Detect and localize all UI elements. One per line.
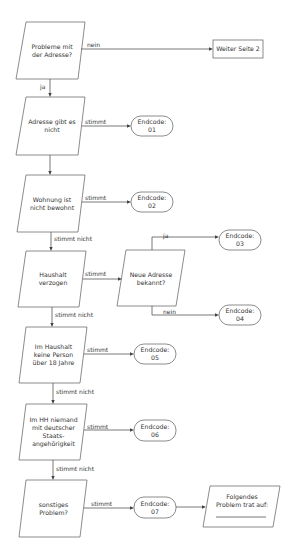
text-line: 04: [219, 315, 261, 323]
text-line: Im Haushalt: [22, 343, 85, 351]
edge-label-stimmt-nicht: stimmt nicht: [56, 388, 94, 395]
text-line: keine Person: [22, 351, 85, 359]
decision-label: Im HH niemand mit deutscher Staats- ange…: [22, 416, 85, 448]
text-line: bekannt?: [120, 279, 182, 287]
text-line: sonstiges: [22, 501, 85, 509]
endcode-label: Endcode: 06: [134, 423, 176, 439]
edge-d5-nein: [152, 306, 217, 315]
edge-label-stimmt: stimmt: [85, 194, 106, 201]
text-line: Endcode:: [131, 118, 173, 126]
text-line: Staats-: [22, 432, 85, 440]
arrowhead-icon: [51, 400, 54, 404]
text-line: Endcode:: [219, 232, 261, 240]
text-line: Folgendes: [205, 493, 279, 501]
arrowhead-icon: [50, 323, 53, 327]
arrowhead-icon: [48, 171, 51, 175]
text-line: Endcode:: [219, 307, 261, 315]
text-line: 07: [134, 508, 176, 516]
text-line: Endcode:: [134, 423, 176, 431]
endcode-label: Endcode: 02: [131, 194, 173, 210]
text-line: der Adresse?: [22, 51, 82, 59]
text-line: 03: [219, 240, 261, 248]
text-line: nicht bewohnt: [21, 204, 83, 212]
text-line: angehörigkeit: [22, 440, 85, 448]
text-line: 01: [131, 126, 173, 134]
text-line: verzogen: [22, 279, 84, 287]
edge-d5-ja: [152, 237, 217, 250]
decision-label: Im Haushalt keine Person über 18 Jahre: [22, 343, 85, 367]
arrowhead-icon: [51, 476, 54, 480]
output-label: Folgendes Problem trat auf:: [205, 493, 279, 509]
edge-label-stimmt-nicht: stimmt nicht: [56, 465, 94, 472]
decision-label: sonstiges Problem?: [22, 501, 85, 517]
text-line: Problem?: [22, 509, 85, 517]
text-line: mit deutscher: [22, 424, 85, 432]
text-line: Endcode:: [131, 194, 173, 202]
text-line: Neue Adresse: [120, 271, 182, 279]
endcode-label: Endcode: 07: [134, 500, 176, 516]
text-line: Adresse gibt es: [20, 118, 84, 126]
endcode-label: Endcode: 01: [131, 118, 173, 134]
edge-label-stimmt: stimmt: [87, 423, 108, 430]
edge-label-nein: nein: [163, 308, 176, 315]
text-line: 05: [134, 354, 176, 362]
decision-label: Adresse gibt es nicht: [20, 118, 84, 134]
edge-label-stimmt: stimmt: [91, 500, 112, 507]
endcode-label: Endcode: 05: [134, 346, 176, 362]
decision-label: Wohnung ist nicht bewohnt: [21, 196, 83, 212]
decision-label: Probleme mit der Adresse?: [22, 43, 82, 59]
decision-label: Haushalt verzogen: [22, 271, 84, 287]
endcode-label: Endcode: 03: [219, 232, 261, 248]
text-line: 02: [131, 202, 173, 210]
arrowhead-icon: [48, 93, 51, 97]
edge-label-stimmt: stimmt: [87, 346, 108, 353]
edge-label-stimmt-nicht: stimmt nicht: [54, 235, 92, 242]
edge-label-stimmt: stimmt: [85, 118, 106, 125]
text-line: Endcode:: [134, 500, 176, 508]
edge-label-stimmt-nicht: stimmt nicht: [55, 311, 93, 318]
text-line: Wohnung ist: [21, 196, 83, 204]
text-line: 06: [134, 431, 176, 439]
text-line: Endcode:: [134, 346, 176, 354]
text-line: Haushalt: [22, 271, 84, 279]
text-line: nicht: [20, 126, 84, 134]
text-line: Im HH niemand: [22, 416, 85, 424]
decision-label: Neue Adresse bekannt?: [120, 271, 182, 287]
edge-label-ja: ja: [40, 83, 45, 90]
arrowhead-icon: [49, 247, 52, 251]
text-line: Probleme mit: [22, 43, 82, 51]
edge-label-ja: ja: [163, 232, 168, 239]
edge-label-nein: nein: [87, 41, 100, 48]
text-line: über 18 Jahre: [22, 359, 85, 367]
process-label: Weiter Seite 2: [213, 45, 263, 53]
endcode-label: Endcode: 04: [219, 307, 261, 323]
edge-label-stimmt: stimmt: [85, 270, 106, 277]
text-line: Problem trat auf:: [205, 501, 279, 509]
